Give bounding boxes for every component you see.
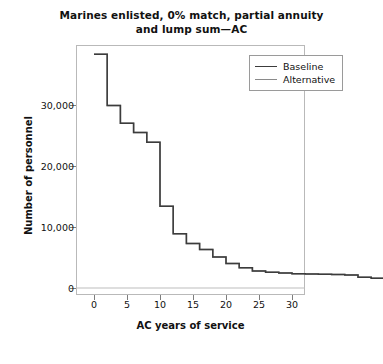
- x-tick-label-10: 10: [145, 299, 175, 310]
- chart-container: Marines enlisted, 0% match, partial annu…: [0, 0, 383, 364]
- chart-title: Marines enlisted, 0% match, partial annu…: [0, 8, 383, 36]
- x-tick-label-30: 30: [277, 299, 307, 310]
- legend-item-baseline: Baseline: [255, 60, 335, 73]
- legend-swatch-alternative: [255, 79, 277, 80]
- x-tick-label-0: 0: [79, 299, 109, 310]
- x-tick-label-15: 15: [178, 299, 208, 310]
- legend-item-alternative: Alternative: [255, 73, 335, 86]
- x-tick-label-25: 25: [244, 299, 274, 310]
- y-tick-label-30000: 30,000: [41, 100, 74, 111]
- y-tick-label-20000: 20,000: [41, 161, 74, 172]
- chart-title-line-1: Marines enlisted, 0% match, partial annu…: [59, 9, 323, 21]
- x-tick-label-20: 20: [211, 299, 241, 310]
- y-tick-label-10000: 10,000: [41, 222, 74, 233]
- y-axis-title: Number of personnel: [23, 96, 34, 256]
- legend-label-alternative: Alternative: [283, 74, 335, 85]
- chart-legend: Baseline Alternative: [249, 55, 343, 91]
- legend-label-baseline: Baseline: [283, 61, 323, 72]
- y-tick-label-0: 0: [68, 283, 74, 294]
- x-axis-title: AC years of service: [76, 320, 305, 331]
- x-tick-label-5: 5: [112, 299, 142, 310]
- legend-swatch-baseline: [255, 66, 277, 67]
- chart-title-line-2: and lump sum—AC: [0, 22, 383, 36]
